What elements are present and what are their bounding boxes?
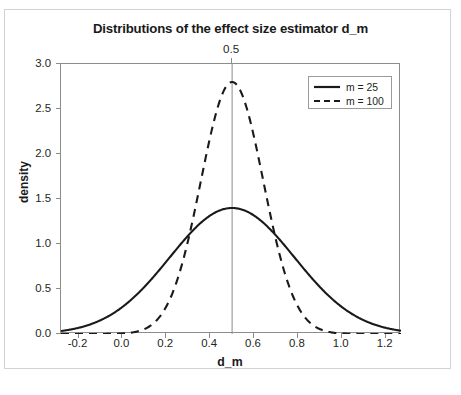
legend-label-m100: m = 100 [346, 96, 384, 107]
chart-title: Distributions of the effect size estimat… [0, 21, 461, 36]
x-tick-label: 0.4 [184, 337, 234, 349]
x-tick-label: -0.2 [53, 337, 103, 349]
legend-label-m25: m = 25 [346, 82, 378, 93]
legend: m = 25 m = 100 [308, 76, 392, 109]
x-tick-label: 1.0 [316, 337, 366, 349]
density-curve-m25 [61, 208, 401, 331]
y-tick-label: 0.0 [17, 328, 51, 338]
legend-swatch-solid [313, 82, 341, 92]
legend-item-m25: m = 25 [313, 80, 387, 94]
legend-swatch-dashed [313, 96, 341, 106]
x-tick-label: 0.8 [272, 337, 322, 349]
x-tick-label: 0.6 [228, 337, 278, 349]
y-tick-label: 0.5 [17, 283, 51, 293]
x-axis-title: d_m [60, 355, 400, 369]
y-tick-label: 2.0 [17, 148, 51, 158]
y-tick-label: 2.5 [17, 103, 51, 113]
legend-item-m100: m = 100 [313, 94, 387, 108]
y-tick-label: 3.0 [17, 58, 51, 68]
reference-line-label: 0.5 [201, 42, 261, 55]
y-tick-label: 1.0 [17, 238, 51, 248]
x-tick-label: 1.2 [360, 337, 410, 349]
y-tick-label: 1.5 [17, 193, 51, 203]
x-tick-label: 0.0 [96, 337, 146, 349]
x-tick-label: 0.2 [140, 337, 190, 349]
